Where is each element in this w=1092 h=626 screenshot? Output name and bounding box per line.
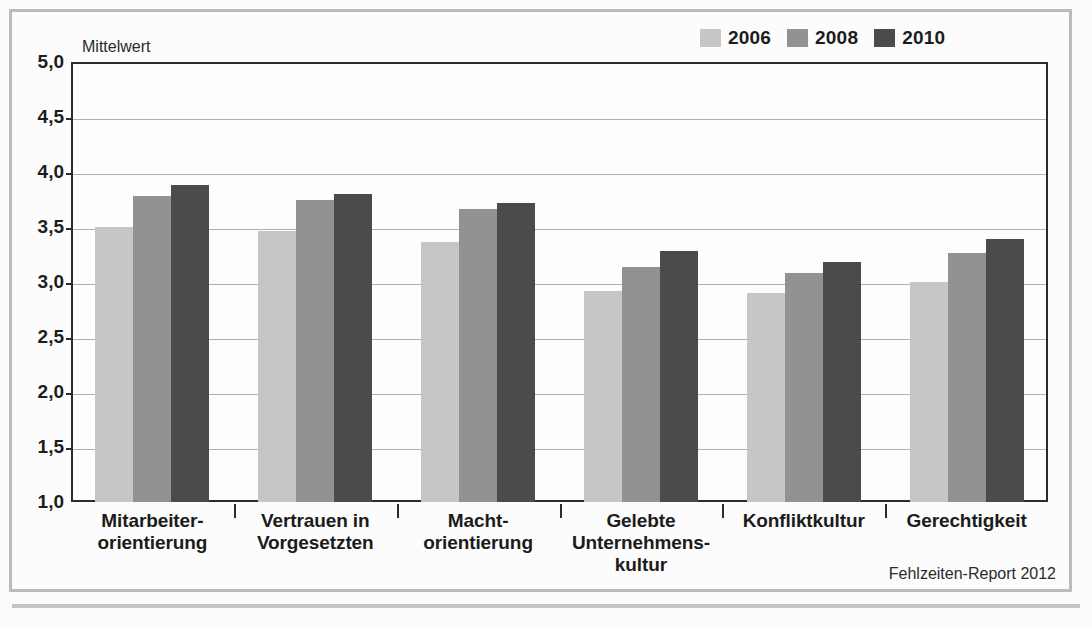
y-tick-mark (66, 338, 73, 340)
x-axis-category-label-line: kultur (560, 554, 723, 576)
x-axis-category-label: Mitarbeiter-orientierung (71, 510, 234, 554)
y-tick-label: 1,5 (20, 436, 64, 458)
x-axis-category-label: Konfliktkultur (722, 510, 885, 532)
legend-swatch-icon (700, 29, 721, 47)
y-tick-mark (66, 173, 73, 175)
y-tick-mark (66, 283, 73, 285)
legend-label: 2010 (902, 27, 945, 49)
x-axis-category-label: Vertrauen inVorgesetzten (234, 510, 397, 554)
y-tick-mark (66, 393, 73, 395)
legend-swatch-icon (874, 29, 895, 47)
x-axis-category-label-line: Vorgesetzten (234, 532, 397, 554)
y-tick-label: 3,5 (20, 216, 64, 238)
y-tick-label: 5,0 (20, 51, 64, 73)
x-axis-category-label-line: Mitarbeiter- (71, 510, 234, 532)
y-axis-title: Mittelwert (82, 38, 150, 56)
x-axis-category-label-line: Unternehmens- (560, 532, 723, 554)
legend-item[interactable]: 2006 (700, 27, 771, 49)
x-axis-category-label-line: Macht- (397, 510, 560, 532)
gridline (73, 174, 1046, 175)
legend-label: 2006 (728, 27, 771, 49)
x-axis-category-label: Gerechtigkeit (885, 510, 1048, 532)
gridline (73, 449, 1046, 450)
plot-area (71, 62, 1048, 502)
gridline (73, 284, 1046, 285)
y-tick-label: 4,5 (20, 106, 64, 128)
x-axis-category-label-line: Vertrauen in (234, 510, 397, 532)
gridline (73, 339, 1046, 340)
gridline (73, 229, 1046, 230)
x-axis-category-label-line: Gerechtigkeit (885, 510, 1048, 532)
x-axis-category-label: GelebteUnternehmens-kultur (560, 510, 723, 576)
y-tick-label: 4,0 (20, 161, 64, 183)
y-tick-mark (66, 448, 73, 450)
x-axis-category-label-line: orientierung (397, 532, 560, 554)
y-tick-mark (66, 228, 73, 230)
source-note: Fehlzeiten-Report 2012 (889, 565, 1056, 583)
x-axis-category-label: Macht-orientierung (397, 510, 560, 554)
legend-swatch-icon (787, 29, 808, 47)
x-axis-category-label-line: Konfliktkultur (722, 510, 885, 532)
legend-item[interactable]: 2008 (787, 27, 858, 49)
legend-label: 2008 (815, 27, 858, 49)
x-axis-category-label-line: orientierung (71, 532, 234, 554)
gridline (73, 394, 1046, 395)
y-tick-label: 3,0 (20, 271, 64, 293)
legend-item[interactable]: 2010 (874, 27, 945, 49)
y-tick-label: 2,0 (20, 381, 64, 403)
y-tick-label: 2,5 (20, 326, 64, 348)
x-axis-category-label-line: Gelebte (560, 510, 723, 532)
y-tick-label: 1,0 (20, 491, 64, 513)
chart-page: 200620082010 Mittelwert Fehlzeiten-Repor… (0, 0, 1092, 626)
figure-bottom-rule (12, 604, 1080, 608)
chart-legend: 200620082010 (700, 27, 945, 49)
gridline (73, 119, 1046, 120)
y-tick-mark (66, 118, 73, 120)
